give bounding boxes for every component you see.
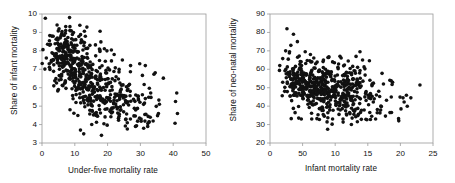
data-point: [98, 47, 102, 51]
data-point: [127, 84, 131, 88]
data-point: [98, 78, 102, 82]
data-point: [385, 98, 389, 102]
data-point: [82, 132, 86, 136]
data-point: [314, 77, 318, 81]
data-point: [88, 44, 92, 48]
data-point: [336, 67, 340, 71]
data-point: [68, 108, 72, 112]
data-point: [124, 99, 128, 103]
data-point: [58, 45, 62, 49]
data-point: [61, 65, 65, 69]
data-point: [78, 24, 82, 28]
data-point: [110, 88, 114, 92]
data-point: [330, 78, 334, 82]
data-point: [350, 116, 354, 120]
data-point: [83, 29, 87, 33]
data-point: [77, 85, 81, 89]
data-point: [405, 93, 409, 97]
data-point: [361, 79, 365, 83]
data-point: [85, 52, 89, 56]
data-point: [312, 56, 316, 60]
data-point: [146, 125, 150, 129]
data-point: [281, 57, 285, 61]
y-axis-title-right: Share of neo-natal mortality: [230, 18, 238, 121]
data-point: [112, 101, 116, 105]
data-point: [326, 97, 330, 101]
data-point: [77, 50, 81, 54]
data-point: [288, 94, 292, 98]
data-point: [309, 53, 313, 57]
data-point: [41, 48, 45, 52]
y-tick-label: 7: [19, 65, 37, 73]
data-point: [99, 40, 103, 44]
data-point: [361, 58, 365, 62]
data-point: [105, 107, 109, 111]
y-tick-label: 80: [247, 28, 265, 36]
data-point: [330, 122, 334, 126]
data-point: [290, 99, 294, 103]
data-point: [128, 94, 132, 98]
data-point: [338, 97, 342, 101]
data-point: [345, 97, 349, 101]
data-point: [358, 69, 362, 73]
data-point: [331, 108, 335, 112]
data-point: [370, 114, 374, 118]
data-point: [50, 58, 54, 62]
data-point: [321, 113, 325, 117]
data-point: [139, 117, 143, 121]
data-point: [57, 78, 61, 82]
data-point: [136, 95, 140, 99]
data-point: [69, 65, 73, 69]
data-point: [52, 84, 56, 88]
scatter-plot-figure: Share of infant mortality Under-five mor…: [0, 0, 455, 183]
data-point: [323, 93, 327, 97]
data-point: [110, 85, 114, 89]
data-point: [64, 68, 68, 72]
data-point: [319, 97, 323, 101]
data-point: [389, 95, 393, 99]
data-point: [104, 59, 108, 63]
data-point: [326, 80, 330, 84]
y-tick-label: 9: [19, 28, 37, 36]
data-point: [60, 74, 64, 78]
data-point: [142, 83, 146, 87]
data-point: [358, 76, 362, 80]
data-point: [351, 65, 355, 69]
data-point: [355, 94, 359, 98]
data-point: [300, 64, 304, 68]
data-point: [336, 91, 340, 95]
data-point: [322, 73, 326, 77]
data-point: [409, 96, 413, 100]
data-point: [352, 69, 356, 73]
data-point: [58, 54, 62, 58]
data-point: [57, 61, 61, 65]
data-point: [327, 92, 331, 96]
data-point: [322, 58, 326, 62]
data-point: [84, 34, 88, 38]
data-point: [71, 62, 75, 66]
data-point: [93, 90, 97, 94]
data-point: [292, 32, 296, 36]
data-point: [278, 69, 282, 73]
data-point: [98, 108, 102, 112]
y-tick-label: 60: [247, 65, 265, 73]
data-point: [283, 86, 287, 90]
data-point: [348, 111, 352, 115]
data-point: [359, 97, 363, 101]
data-point: [368, 111, 372, 115]
data-point: [311, 99, 315, 103]
data-point: [344, 109, 348, 113]
data-point: [121, 83, 125, 87]
data-point: [71, 45, 75, 49]
data-point: [95, 120, 99, 124]
data-point: [58, 36, 62, 40]
data-point: [310, 111, 314, 115]
data-point: [114, 66, 118, 70]
data-point: [110, 48, 114, 52]
data-point: [97, 104, 101, 108]
data-point: [292, 107, 296, 111]
data-point: [142, 126, 146, 130]
data-point: [103, 78, 107, 82]
data-point: [327, 89, 331, 93]
data-point: [55, 23, 59, 27]
